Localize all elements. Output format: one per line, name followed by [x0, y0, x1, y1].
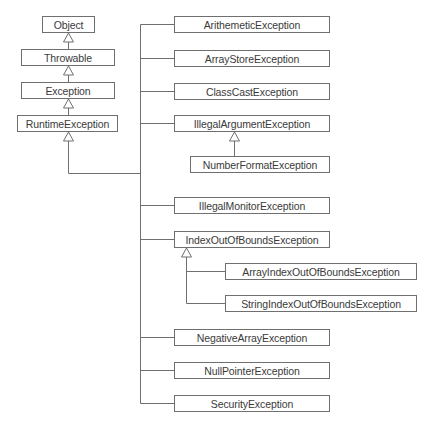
class-box-object: Object: [42, 16, 95, 33]
inheritance-arrow-icon: [64, 33, 74, 42]
class-box-string-index-out-of-bounds-exception: StringIndexOutOfBoundsException: [225, 295, 417, 312]
class-box-security-exception: SecurityException: [174, 395, 330, 412]
class-box-array-store-exception: ArrayStoreException: [174, 50, 330, 67]
inheritance-arrow-icon: [230, 132, 240, 141]
inheritance-arrow-icon: [182, 248, 192, 257]
class-box-number-format-exception: NumberFormatException: [190, 156, 330, 173]
class-box-throwable: Throwable: [21, 49, 115, 66]
inheritance-arrow-icon: [64, 99, 74, 108]
class-box-illegal-argument-exception: IllegalArgumentException: [174, 115, 330, 132]
class-hierarchy-diagram: ObjectThrowableExceptionRuntimeException…: [0, 0, 435, 425]
class-box-array-index-out-of-bounds-exception: ArrayIndexOutOfBoundsException: [225, 263, 417, 280]
class-box-negative-array-exception: NegativeArrayException: [174, 329, 330, 346]
class-box-null-pointer-exception: NullPointerException: [174, 362, 330, 379]
inheritance-arrow-icon: [64, 132, 74, 141]
class-box-class-cast-exception: ClassCastException: [174, 83, 330, 100]
class-box-illegal-monitor-exception: IllegalMonitorException: [174, 197, 330, 214]
class-box-arithemetic-exception: ArithemeticException: [174, 16, 330, 33]
class-box-exception: Exception: [21, 82, 115, 99]
class-box-index-out-of-bounds-exception: IndexOutOfBoundsException: [174, 231, 330, 248]
class-box-runtime-exception: RuntimeException: [17, 115, 118, 132]
inheritance-arrow-icon: [64, 66, 74, 75]
